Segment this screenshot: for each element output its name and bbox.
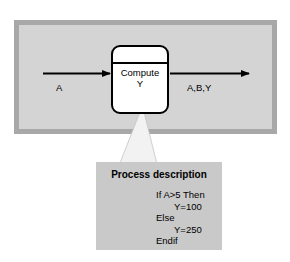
process-description-title: Process description <box>96 169 222 180</box>
code-line: Y=100 <box>96 201 222 213</box>
process-label: Compute Y <box>113 67 167 89</box>
code-line: If A>5 Then <box>96 189 222 201</box>
code-line: Endif <box>96 235 222 247</box>
output-flow-label: A,B,Y <box>187 82 211 93</box>
process-box-divider <box>113 62 167 64</box>
diagram-canvas: Compute Y A A,B,Y Process description If… <box>0 0 290 262</box>
code-line: Y=250 <box>96 224 222 236</box>
process-description-code: If A>5 Then Y=100 Else Y=250 Endif <box>96 189 222 247</box>
process-box[interactable]: Compute Y <box>111 45 169 114</box>
process-description-box[interactable]: Process description If A>5 Then Y=100 El… <box>96 162 222 250</box>
input-flow-label: A <box>56 82 62 93</box>
code-line: Else <box>96 212 222 224</box>
